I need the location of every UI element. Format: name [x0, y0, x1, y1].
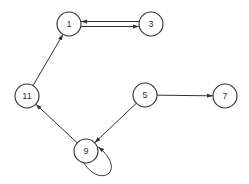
node-1-label: 1	[66, 19, 71, 29]
node-11-label: 11	[22, 91, 31, 101]
node-7-label: 7	[222, 91, 227, 101]
edge-5-to-9	[95, 103, 137, 142]
edges-layer	[33, 22, 213, 176]
node-5-label: 5	[142, 90, 147, 100]
node-1[interactable]: 1	[57, 12, 81, 36]
node-5[interactable]: 5	[133, 83, 157, 107]
edge-9-to-11	[36, 104, 77, 143]
node-3-label: 3	[148, 19, 153, 29]
node-9[interactable]: 9	[74, 139, 98, 163]
node-7[interactable]: 7	[213, 84, 237, 108]
edge-5-to-7	[157, 95, 213, 96]
node-11[interactable]: 11	[15, 84, 39, 108]
node-3[interactable]: 3	[139, 12, 163, 36]
edge-11-to-1	[33, 34, 63, 85]
node-9-label: 9	[83, 146, 88, 156]
graph-canvas: 1 3 11 5 7 9	[0, 0, 249, 184]
nodes-layer: 1 3 11 5 7 9	[15, 12, 237, 163]
